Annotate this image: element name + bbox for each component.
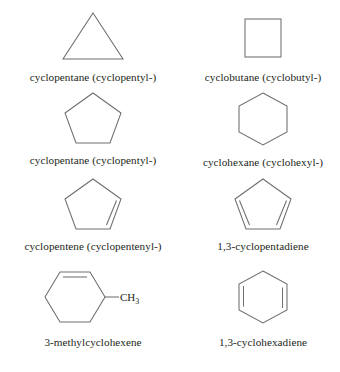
figure-root: cyclopentane (cyclopentyl-) cyclobutane … [0,0,340,372]
caption-cyclohexadiene: 1,3-cyclohexadiene [219,336,307,348]
triangle-structure [60,10,126,62]
methylcyclohexene-structure: CH3 [40,268,146,326]
caption-cyclopentene: cyclopentene (cyclopentenyl-) [24,240,161,252]
structure-cell-cyclopentane-pentagon: cyclopentane (cyclopentyl-) [0,88,186,174]
methyl-group-label: CH3 [120,291,139,306]
square-structure [242,10,284,62]
caption-cyclopentane-triangle: cyclopentane (cyclopentyl-) [30,71,157,83]
caption-methylcyclohexene: 3-methylcyclohexene [44,336,141,348]
caption-cyclopentane-pentagon: cyclopentane (cyclopentyl-) [30,154,157,166]
caption-cyclopentadiene: 1,3-cyclopentadiene [217,240,308,252]
structure-grid: cyclopentane (cyclopentyl-) cyclobutane … [0,0,340,372]
structure-cell-cyclobutane: cyclobutane (cyclobutyl-) [186,0,340,88]
pentagon-structure [61,90,125,146]
structure-cell-cyclohexane: cyclohexane (cyclohexyl-) [186,88,340,174]
structure-cell-cyclopentene: cyclopentene (cyclopentenyl-) [0,174,186,262]
cyclohexadiene-structure [235,268,291,326]
cyclopentadiene-structure [231,176,295,232]
caption-cyclobutane: cyclobutane (cyclobutyl-) [205,71,322,83]
structure-cell-methylcyclohexene: CH3 3-methylcyclohexene [0,262,186,372]
hexagon-structure [235,90,291,148]
cyclopentene-structure [61,176,125,232]
structure-cell-cyclopentane-triangle: cyclopentane (cyclopentyl-) [0,0,186,88]
structure-cell-cyclohexadiene: 1,3-cyclohexadiene [186,262,340,372]
structure-cell-cyclopentadiene: 1,3-cyclopentadiene [186,174,340,262]
caption-cyclohexane: cyclohexane (cyclohexyl-) [203,156,323,168]
